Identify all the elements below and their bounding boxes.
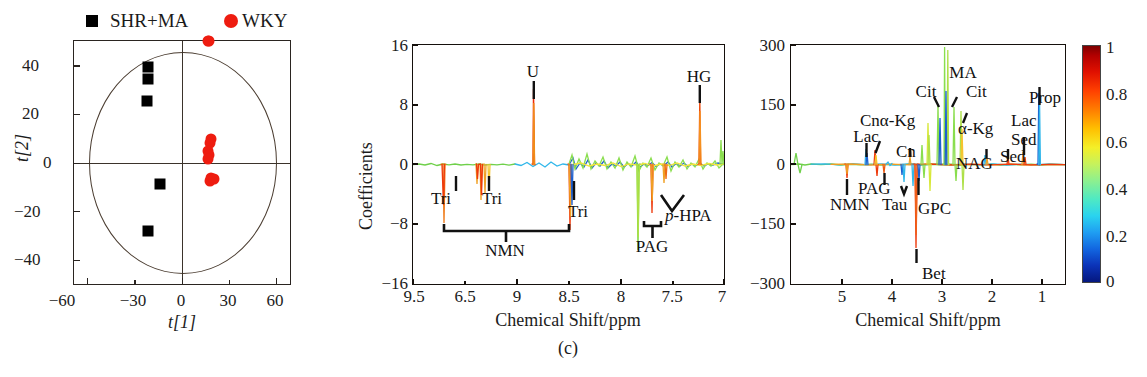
colorbar-tick-label: 0.6: [1106, 134, 1127, 151]
x-tick-label: 8: [617, 288, 626, 305]
scores-scatter-plot: [73, 40, 291, 285]
y-tick: [412, 163, 418, 165]
y-tick-label: −40: [14, 251, 41, 268]
y-axis-label: Coefficients: [357, 142, 375, 230]
x-tick: [516, 279, 518, 285]
x-tick-minor: [134, 280, 135, 284]
peak-label-tri: Tri: [431, 190, 451, 207]
x-tick: [620, 279, 622, 285]
x-tick-label: 7.5: [661, 288, 682, 305]
figure-panel-c: SHR+MA WKY: [0, 0, 1147, 377]
x-tick-label: −60: [49, 292, 76, 309]
y-tick-label: 8: [376, 96, 408, 113]
x-tick-label: 8.5: [558, 288, 579, 305]
peak-label-pag: PAG: [636, 238, 668, 255]
peak-label-bet: Bet: [922, 265, 946, 282]
legend-marker-shr-ma: [86, 15, 98, 27]
peak-label-u: U: [527, 63, 539, 80]
x-tick-label: 1: [1038, 288, 1047, 305]
peak-label-tau: Tau: [882, 196, 907, 213]
scatter-point-shr-ma: [143, 62, 154, 73]
y-tick-label: 0: [43, 154, 52, 171]
y-tick: [74, 65, 80, 66]
x-tick: [182, 278, 183, 284]
x-tick: [412, 279, 414, 285]
x-tick-label: 9: [513, 288, 522, 305]
y-tick-label: −300: [731, 275, 785, 292]
spectrum-trace-aromatic: [413, 45, 724, 284]
y-tick-label: −16: [370, 275, 408, 292]
x-axis-label: Chemical Shift/ppm: [495, 311, 641, 329]
legend-label-wky: WKY: [242, 11, 287, 30]
x-tick-label: 60: [267, 292, 284, 309]
y-axis-label: t[2]: [13, 134, 31, 162]
scatter-point-wky: [203, 36, 214, 47]
x-tick: [991, 279, 993, 285]
colorbar-tick-label: 0.8: [1106, 86, 1127, 103]
colorbar-tick-label: 0.4: [1106, 181, 1127, 198]
y-tick-label: 300: [737, 37, 785, 54]
x-tick-label: 6.5: [454, 288, 475, 305]
x-tick-label: 2: [988, 288, 997, 305]
y-tick: [74, 163, 80, 164]
x-tick-minor: [568, 281, 570, 285]
scatter-point-shr-ma: [143, 74, 154, 85]
y-tick: [74, 114, 80, 115]
x-tick-label: 3: [938, 288, 947, 305]
y-tick: [74, 211, 80, 212]
peak-label-lac: Lac: [1011, 112, 1036, 129]
x-tick: [87, 278, 88, 284]
peak-label-sed: Sed: [1000, 148, 1026, 165]
y-tick: [790, 104, 796, 106]
peak-label-ma: MA: [949, 64, 976, 81]
x-tick: [891, 279, 893, 285]
peak-label-sed: Sed: [1011, 131, 1037, 148]
peak-label-nmn: NMN: [485, 242, 525, 259]
peak-label-alpha-kg: α-Kg: [958, 120, 993, 137]
y-tick-label: −20: [14, 203, 41, 220]
x-tick-label: 0: [177, 292, 186, 309]
peak-label-gpc: GPC: [918, 200, 951, 217]
scatter-point-wky: [203, 153, 214, 164]
colorbar-tick-label: 1: [1106, 39, 1115, 56]
x-tick: [1041, 279, 1043, 285]
y-tick: [790, 44, 796, 46]
peak-label-p-hpa: p-HPA: [665, 207, 712, 224]
x-tick-label: 7: [718, 288, 727, 305]
x-axis-label: Chemical Shift/ppm: [855, 311, 1001, 329]
colorbar-tick-label: 0.2: [1106, 228, 1127, 245]
peak-label-cit: Cit: [966, 83, 987, 100]
peak-label-p-hpa-suffix: -HPA: [674, 206, 712, 225]
figure-caption: (c): [558, 338, 578, 359]
x-tick-minor: [672, 281, 674, 285]
x-tick-label: 4: [888, 288, 897, 305]
y-tick-label: 40: [22, 57, 39, 74]
scatter-point-shr-ma: [143, 226, 154, 237]
y-tick: [412, 223, 418, 225]
y-tick-label: 20: [22, 105, 39, 122]
peak-label-prop: Prop: [1029, 89, 1061, 106]
x-tick-label: −30: [120, 292, 147, 309]
peak-label-cn: Cn: [896, 143, 916, 160]
colorbar: [1082, 45, 1101, 283]
peak-label-tri: Tri: [568, 203, 588, 220]
y-tick-label: 150: [737, 96, 785, 113]
peak-label-nag: NAG: [956, 155, 993, 172]
x-axis-label: t[1]: [168, 313, 196, 331]
y-tick-label: −150: [731, 215, 785, 232]
peak-label-nmn: NMN: [830, 196, 870, 213]
y-tick: [790, 223, 796, 225]
peak-label-cit: Cit: [916, 83, 937, 100]
y-tick: [74, 260, 80, 261]
peak-label-lac: Lac: [853, 128, 878, 145]
legend: SHR+MA WKY: [86, 8, 316, 34]
y-zero-axis: [182, 41, 183, 284]
x-tick-minor: [464, 281, 466, 285]
x-tick: [276, 278, 277, 284]
colorbar-tick-label: 0: [1106, 273, 1115, 290]
y-tick: [790, 163, 796, 165]
peak-label-cn-alpha-kg: Cnα-Kg: [860, 112, 915, 129]
x-tick: [841, 279, 843, 285]
y-tick-label: 16: [376, 37, 408, 54]
y-tick: [412, 44, 418, 46]
